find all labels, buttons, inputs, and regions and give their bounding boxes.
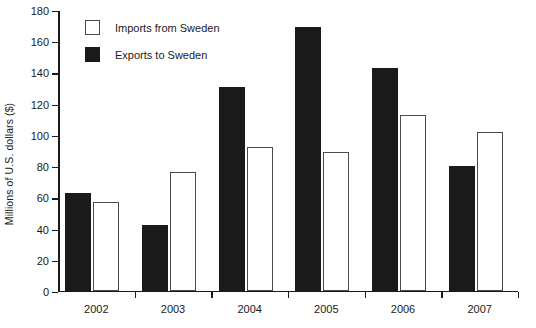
y-tick-label: 180 — [31, 5, 49, 17]
bar-imports-2006 — [400, 115, 426, 291]
y-tick-label: 140 — [31, 67, 49, 79]
y-tick-label: 80 — [37, 161, 49, 173]
x-tick-label-2007: 2007 — [467, 303, 491, 315]
legend-label-exports: Exports to Sweden — [115, 49, 207, 61]
chart-legend: Imports from Sweden Exports to Sweden — [85, 14, 220, 68]
bar-imports-2003 — [170, 172, 196, 291]
x-tick-label-2006: 2006 — [391, 303, 415, 315]
y-tick-label: 100 — [31, 130, 49, 142]
bar-exports-2005 — [295, 27, 321, 291]
bar-exports-2002 — [65, 193, 91, 291]
y-tick-mark — [52, 261, 58, 262]
y-tick-mark — [52, 167, 58, 168]
legend-label-imports: Imports from Sweden — [115, 22, 220, 34]
legend-item-exports: Exports to Sweden — [85, 41, 220, 68]
x-tick-mark — [211, 292, 212, 298]
bar-imports-2007 — [477, 132, 503, 291]
y-tick-mark — [52, 198, 58, 199]
x-tick-mark — [288, 292, 289, 298]
legend-swatch-imports-icon — [85, 20, 100, 35]
y-tick-label: 120 — [31, 99, 49, 111]
x-tick-mark — [365, 292, 366, 298]
y-tick-label: 40 — [37, 224, 49, 236]
y-tick-mark — [52, 136, 58, 137]
y-tick-label: 20 — [37, 255, 49, 267]
y-axis-line — [58, 11, 60, 292]
bar-imports-2002 — [93, 202, 119, 291]
bar-imports-2004 — [247, 147, 273, 291]
bar-exports-2006 — [372, 68, 398, 291]
legend-swatch-exports-icon — [85, 47, 100, 62]
y-tick-mark — [52, 230, 58, 231]
x-tick-mark — [135, 292, 136, 298]
y-tick-mark — [52, 73, 58, 74]
y-tick-label: 0 — [43, 286, 49, 298]
bar-imports-2005 — [323, 152, 349, 291]
x-tick-label-2003: 2003 — [161, 303, 185, 315]
bar-exports-2004 — [219, 87, 245, 292]
bar-exports-2003 — [142, 225, 168, 291]
y-tick-mark — [52, 105, 58, 106]
x-tick-label-2002: 2002 — [84, 303, 108, 315]
y-tick-mark — [52, 292, 58, 293]
x-tick-mark — [441, 292, 442, 298]
y-tick-mark — [52, 11, 58, 12]
y-tick-mark — [52, 42, 58, 43]
legend-item-imports: Imports from Sweden — [85, 14, 220, 41]
bar-exports-2007 — [449, 166, 475, 291]
y-tick-label: 60 — [37, 192, 49, 204]
y-tick-label: 160 — [31, 36, 49, 48]
x-tick-label-2004: 2004 — [237, 303, 261, 315]
bar-chart: Millions of U.S. dollars ($) 02040608010… — [0, 0, 536, 328]
x-tick-mark — [518, 292, 519, 298]
x-tick-label-2005: 2005 — [314, 303, 338, 315]
y-axis-title: Millions of U.S. dollars ($) — [0, 0, 18, 328]
